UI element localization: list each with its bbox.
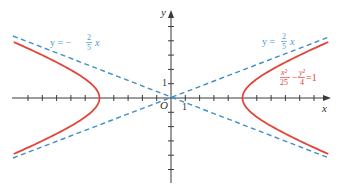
svg-text:−: − — [292, 72, 298, 83]
left-asymptote-equation: y = − 2 5 x — [50, 33, 100, 52]
x-tick-label-1: 1 — [182, 101, 187, 112]
svg-text:2: 2 — [282, 32, 286, 41]
svg-text:y²: y² — [298, 68, 306, 77]
svg-text:5: 5 — [87, 43, 91, 52]
svg-text:x: x — [94, 37, 100, 48]
y-tick-label-1: 1 — [162, 77, 167, 88]
origin-label: O — [160, 99, 168, 111]
svg-text:2: 2 — [87, 33, 91, 42]
hyperbola-equation: x² 25 − y² 4 =1 — [280, 68, 317, 87]
x-axis-label: x — [321, 102, 327, 114]
hyperbola-chart: y x O 1 1 y = − 2 5 x y = 2 5 x x² 25 − … — [0, 0, 342, 190]
svg-text:25: 25 — [280, 78, 288, 87]
svg-text:y =: y = — [262, 36, 276, 47]
svg-text:=1: =1 — [306, 72, 317, 83]
x-axis-arrow-icon — [323, 95, 331, 101]
svg-text:x²: x² — [280, 68, 288, 77]
y-axis-arrow-icon — [168, 10, 174, 18]
svg-text:x: x — [289, 36, 295, 47]
y-axis-label: y — [160, 6, 166, 18]
right-asymptote-equation: y = 2 5 x — [262, 32, 295, 51]
svg-text:y = −: y = − — [50, 37, 72, 48]
svg-text:4: 4 — [300, 78, 304, 87]
svg-text:5: 5 — [282, 42, 286, 51]
